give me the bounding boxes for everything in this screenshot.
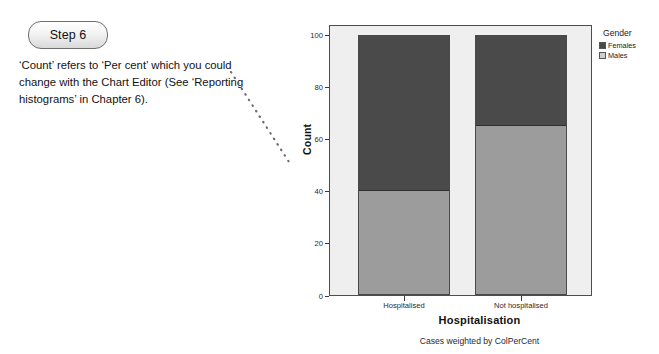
bar-group-not-hospitalised[interactable] (475, 35, 567, 295)
y-tick-label: 0 (319, 292, 323, 301)
chart-figure: Count 100 80 60 40 20 0 (300, 0, 659, 354)
stacked-bar[interactable] (475, 35, 567, 295)
stacked-bar[interactable] (358, 35, 450, 295)
legend-item-females[interactable]: Females (599, 41, 659, 50)
bar-segment-males[interactable] (476, 126, 566, 294)
step-badge: Step 6 (28, 21, 108, 49)
y-axis: Count 100 80 60 40 20 0 (300, 25, 329, 296)
bar-segment-females[interactable] (359, 36, 449, 191)
x-tick-label-not-hospitalised: Not hospitalised (476, 301, 566, 310)
legend-item-label: Females (608, 41, 636, 50)
chart-footnote: Cases weighted by ColPerCent (300, 336, 659, 346)
plot-inner (330, 26, 591, 295)
y-tick-label: 100 (310, 31, 323, 40)
legend: Gender Females Males (599, 28, 659, 61)
x-axis-title: Hospitalisation (300, 314, 659, 326)
y-tick-label: 40 (315, 187, 323, 196)
y-tick-label: 20 (315, 239, 323, 248)
step-badge-label: Step 6 (50, 28, 87, 42)
annotation-panel: Step 6 ‘Count’ refers to ‘Per cent’ whic… (0, 0, 300, 354)
legend-swatch-icon (599, 42, 606, 49)
legend-item-males[interactable]: Males (599, 51, 659, 60)
legend-item-label: Males (608, 51, 627, 60)
bar-segment-females[interactable] (476, 36, 566, 126)
annotation-body-text: ‘Count’ refers to ‘Per cent’ which you c… (19, 57, 244, 108)
legend-swatch-icon (599, 52, 606, 59)
y-axis-title: Count (301, 124, 313, 155)
legend-title: Gender (603, 28, 659, 38)
plot-area (329, 25, 592, 296)
y-tick-label: 80 (315, 83, 323, 92)
bar-segment-males[interactable] (359, 191, 449, 294)
y-tick-label: 60 (315, 135, 323, 144)
bar-group-hospitalised[interactable] (358, 35, 450, 295)
x-tick-label-hospitalised: Hospitalised (364, 301, 444, 310)
